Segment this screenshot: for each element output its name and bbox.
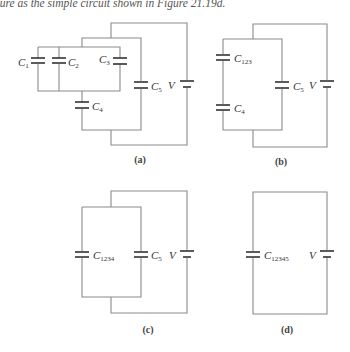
- battery-icon: [180, 81, 194, 87]
- label-c4: C4: [92, 100, 103, 114]
- capacitor-icon: [134, 252, 148, 257]
- battery-icon: [320, 81, 334, 87]
- circuit-a: C1 C2 C3 C4 C5 V (a): [18, 23, 194, 166]
- circuit-diagram: C1 C2 C3 C4 C5 V (a): [0, 0, 350, 352]
- label-c4: C4: [234, 102, 245, 116]
- capacitor-icon: [31, 58, 45, 63]
- capacitor-icon: [275, 82, 289, 88]
- capacitor-icon: [75, 252, 89, 257]
- label-c5: C5: [151, 249, 162, 263]
- label-c12345: C12345: [264, 249, 289, 263]
- label-battery-v: V: [309, 249, 317, 261]
- label-c2: C2: [68, 56, 79, 70]
- capacitor-icon: [216, 55, 230, 60]
- label-c5: C5: [293, 80, 304, 94]
- panel-label-d: (d): [281, 324, 293, 336]
- battery-icon: [180, 251, 194, 257]
- label-battery-v: V: [168, 79, 176, 91]
- capacitor-icon: [113, 58, 127, 64]
- capacitor-icon: [216, 105, 230, 110]
- label-c3: C3: [99, 53, 110, 67]
- label-c1: C1: [18, 56, 29, 70]
- panel-label-c: (c): [142, 324, 153, 336]
- battery-icon: [320, 251, 334, 257]
- label-battery-v: V: [309, 79, 317, 91]
- label-c123: C123: [234, 52, 252, 66]
- capacitor-icon: [75, 102, 89, 108]
- circuit-d: C12345 V (d): [246, 192, 334, 336]
- circuit-b: C123 C4 C5 V (b): [216, 24, 334, 168]
- label-c1234: C1234: [93, 249, 115, 263]
- capacitor-icon: [246, 252, 260, 257]
- label-battery-v: V: [169, 249, 177, 261]
- capacitor-icon: [134, 82, 148, 88]
- panel-label-b: (b): [275, 156, 287, 168]
- capacitor-icon: [52, 58, 66, 63]
- circuit-c: C1234 C5 V (c): [75, 191, 194, 336]
- panel-label-a: (a): [134, 154, 146, 166]
- label-c5: C5: [151, 80, 162, 94]
